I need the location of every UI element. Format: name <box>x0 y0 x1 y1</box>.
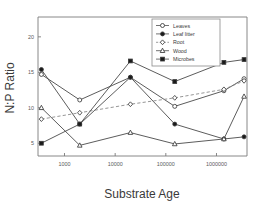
data-point <box>222 60 226 64</box>
legend-marker-icon <box>161 57 165 61</box>
legend-label: Leaves <box>173 23 190 29</box>
x-tick-label-1000000: 1000000 <box>206 161 227 167</box>
np-ratio-line-chart: 5101520 1000100001000001000000 Substrate… <box>0 0 256 207</box>
y-tick-label-5: 5 <box>31 140 34 146</box>
y-axis-title: N:P Ratio <box>3 62 17 113</box>
data-point <box>78 98 82 102</box>
data-point <box>78 122 82 126</box>
x-tick-label-1000: 1000 <box>58 161 70 167</box>
legend-item-microbes[interactable]: Microbes <box>156 56 195 62</box>
legend-item-leaf-litter[interactable]: Leaf litter <box>156 31 195 37</box>
chart-legend: LeavesLeaf litterRootWoodMicrobes <box>152 19 220 66</box>
data-point <box>242 58 246 62</box>
legend-label: Root <box>173 39 185 45</box>
y-tick-label-15: 15 <box>28 69 34 75</box>
x-tick-label-10000: 10000 <box>108 161 123 167</box>
legend-label: Microbes <box>173 56 195 62</box>
legend-marker-icon <box>161 24 165 28</box>
y-tick-label-10: 10 <box>28 105 34 111</box>
data-point <box>128 75 132 79</box>
data-point <box>173 80 177 84</box>
x-tick-label-100000: 100000 <box>157 161 175 167</box>
x-axis-title: Substrate Age <box>104 187 180 201</box>
y-tick-label-20: 20 <box>28 34 34 40</box>
legend-label: Wood <box>173 48 187 54</box>
data-point <box>39 67 43 71</box>
data-point <box>242 135 246 139</box>
data-point <box>173 104 177 108</box>
chart-figure: 5101520 1000100001000001000000 Substrate… <box>0 0 256 207</box>
legend-label: Leaf litter <box>173 31 195 37</box>
legend-marker-icon <box>161 32 165 36</box>
data-point <box>129 59 133 63</box>
data-point <box>39 141 43 145</box>
data-point <box>39 72 43 76</box>
data-point <box>173 122 177 126</box>
